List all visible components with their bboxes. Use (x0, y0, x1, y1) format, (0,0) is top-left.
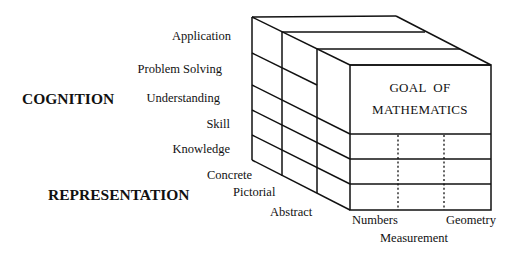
cognition-level-understanding: Understanding (146, 91, 220, 105)
content-level-geometry: Geometry (446, 213, 497, 227)
cube-side-face (252, 17, 350, 210)
content-level-numbers: Numbers (352, 213, 398, 227)
goal-of-mathematics-cube-diagram: GOAL OF MATHEMATICS COGNITION Applicatio… (0, 0, 520, 260)
cognition-level-problem-solving: Problem Solving (138, 62, 223, 76)
content-level-measurement: Measurement (380, 231, 449, 245)
cognition-level-skill: Skill (206, 117, 230, 131)
goal-title-line2: MATHEMATICS (372, 102, 468, 117)
goal-title-line1: GOAL OF (389, 80, 450, 95)
cognition-level-application: Application (172, 29, 232, 43)
cube-top-face (252, 16, 491, 65)
representation-level-abstract: Abstract (270, 205, 313, 219)
representation-axis-title: REPRESENTATION (48, 186, 190, 203)
representation-level-concrete: Concrete (207, 168, 253, 182)
cognition-level-knowledge: Knowledge (172, 142, 230, 156)
representation-level-pictorial: Pictorial (233, 185, 276, 199)
cognition-axis-title: COGNITION (22, 90, 114, 107)
